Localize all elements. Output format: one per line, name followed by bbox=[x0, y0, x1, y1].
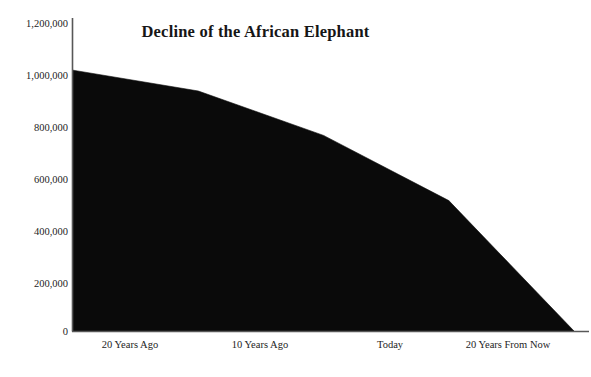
x-tick-label: 10 Years Ago bbox=[232, 338, 288, 351]
y-tick-label: 800,000 bbox=[8, 122, 68, 133]
y-tick-label: 400,000 bbox=[8, 226, 68, 237]
y-tick-label: 0 bbox=[8, 326, 68, 337]
y-tick-label: 600,000 bbox=[8, 174, 68, 185]
x-tick-label: Today bbox=[377, 338, 403, 351]
x-tick-label: 20 Years From Now bbox=[466, 338, 551, 351]
chart-figure: Decline of the African Elephant 1,200,00… bbox=[0, 0, 591, 377]
area-series-path bbox=[73, 70, 574, 331]
y-axis-tick-labels: 1,200,000 1,000,000 800,000 600,000 400,… bbox=[6, 0, 68, 377]
y-tick-label: 1,200,000 bbox=[8, 18, 68, 29]
x-axis-tick-labels: 20 Years Ago 10 Years Ago Today 20 Years… bbox=[0, 338, 591, 358]
y-tick-label: 1,000,000 bbox=[8, 70, 68, 81]
y-tick-label: 200,000 bbox=[8, 278, 68, 289]
x-tick-label: 20 Years Ago bbox=[102, 338, 158, 351]
area-chart-plot bbox=[0, 0, 591, 377]
